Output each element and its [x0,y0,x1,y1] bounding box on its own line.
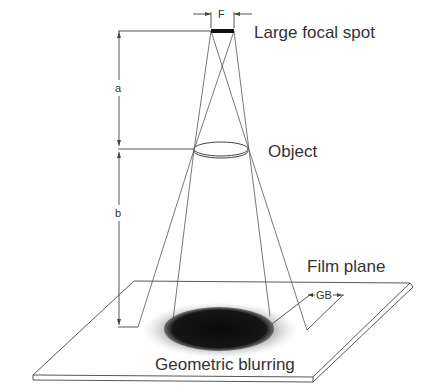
umbra [164,307,274,351]
film-plane-label: Film plane [307,257,385,276]
geometric-blurring-label: Geometric blurring [155,355,295,374]
distance-a-label: a [115,82,122,94]
distance-b-label: b [115,207,121,219]
focal-spot [211,29,234,33]
object-label: Object [268,142,317,161]
object [194,142,248,158]
geometric-blurring-diagram: F Large focal spot Object a b Film [0,0,434,392]
focal-width-dimension: F [193,8,252,28]
focal-width-label: F [218,8,225,20]
blur-shadow [142,302,298,358]
focal-spot-label: Large focal spot [254,23,375,42]
blur-width-label: GB [316,289,332,301]
